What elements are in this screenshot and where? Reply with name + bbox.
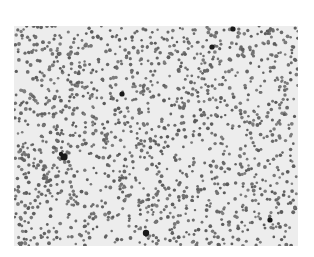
- dark-particle: [143, 230, 149, 236]
- dark-particle: [209, 44, 214, 49]
- particle-field: [14, 26, 298, 246]
- dark-particle: [119, 91, 124, 96]
- dark-particle: [59, 152, 63, 156]
- dark-particle: [267, 217, 272, 222]
- micrograph-image: [14, 26, 298, 246]
- dark-particle: [230, 26, 235, 31]
